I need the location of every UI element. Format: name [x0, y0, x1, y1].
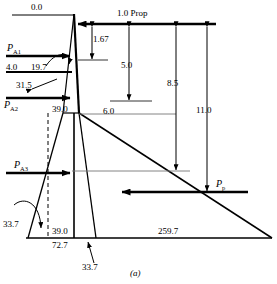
wall-right-face: [74, 14, 79, 238]
label-33-7-bottom: 33.7: [82, 262, 98, 272]
figure-container: 0.0 1.0 Prop PA1 4.0 19.7 31.5 PA2 39.0 …: [0, 0, 277, 284]
label-prop: 1.0 Prop: [117, 8, 148, 18]
label-pa1-sub: A1: [13, 48, 21, 55]
label-1-67: 1.67: [93, 34, 109, 44]
label-pa3-sub: A3: [20, 165, 28, 172]
label-259-7: 259.7: [158, 226, 178, 236]
label-39-top: 39.0: [52, 104, 68, 114]
label-72-7: 72.7: [52, 240, 68, 250]
label-33-7-left: 33.7: [3, 219, 19, 229]
leader-33-7-bottom: [88, 242, 94, 263]
label-8-5: 8.5: [167, 78, 178, 88]
label-pp-sub: p: [222, 184, 225, 191]
dimension-8-5: [72, 27, 190, 171]
diagram-svg: [0, 0, 277, 284]
label-31-5: 31.5: [16, 80, 32, 90]
label-6-0: 6.0: [103, 106, 114, 116]
label-11-0: 11.0: [196, 105, 211, 115]
label-5-0: 5.0: [121, 60, 132, 70]
label-19-7: 19.7: [31, 62, 47, 72]
leader-31-5: [32, 79, 57, 89]
label-39-bottom: 39.0: [52, 226, 68, 236]
wall-inner-wedge-line: [79, 113, 96, 238]
label-pa2-sub: A2: [10, 105, 18, 112]
label-top-zero: 0.0: [31, 2, 42, 12]
label-pa2: PA2: [4, 99, 18, 112]
figure-caption: (a): [130, 268, 141, 278]
label-pa1: PA1: [7, 42, 21, 55]
label-4-0: 4.0: [6, 62, 17, 72]
wall-left-face: [28, 14, 74, 238]
label-pp: Pp: [216, 178, 225, 191]
label-pa3: PA3: [14, 159, 28, 172]
